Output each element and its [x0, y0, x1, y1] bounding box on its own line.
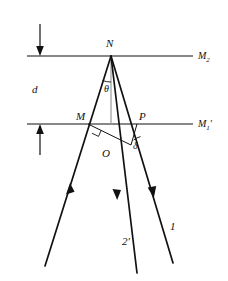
label-bottom-surface: M1′ — [197, 118, 213, 132]
incident-ray-line — [45, 56, 111, 266]
label-thickness-d: d — [32, 83, 38, 95]
ray-2-prime-arrowhead-icon — [113, 189, 122, 200]
theta-angle-arc — [103, 81, 111, 82]
label-ray-2-prime: 2′ — [122, 235, 131, 247]
right-angle-marker-icon — [92, 130, 101, 136]
label-point-p: P — [138, 110, 146, 122]
ray-1-line — [111, 56, 173, 263]
diagram-canvas: N M P O θ δ d M2 M1′ 2′ 1 — [0, 0, 228, 281]
thickness-top-arrowhead-icon — [36, 46, 44, 56]
label-angle-theta: θ — [104, 83, 109, 94]
label-point-o: O — [102, 147, 110, 159]
label-point-n: N — [105, 37, 114, 49]
incident-ray-arrowhead-icon — [66, 183, 75, 194]
label-ray-1: 1 — [170, 220, 176, 232]
label-angle-delta: δ — [133, 140, 138, 151]
label-point-m: M — [75, 110, 86, 122]
thickness-bottom-arrowhead-icon — [36, 124, 44, 134]
label-top-surface-sub: 2 — [206, 56, 210, 64]
ray-1-arrowhead-icon — [148, 186, 157, 198]
label-top-surface: M2 — [197, 50, 210, 64]
label-bottom-surface-prime: ′ — [210, 118, 213, 129]
optics-diagram-figure: N M P O θ δ d M2 M1′ 2′ 1 — [0, 0, 228, 281]
